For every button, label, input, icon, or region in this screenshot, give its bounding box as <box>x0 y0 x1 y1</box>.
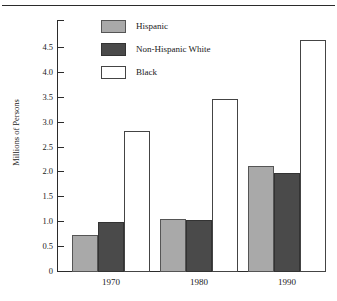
legend-item-black: Black <box>101 65 271 84</box>
y-tick-label-2-0: 2.0 <box>23 167 53 176</box>
legend-item-non-hispanic-white: Non-Hispanic White <box>101 42 271 61</box>
y-tick-label-2-5: 2.5 <box>23 143 53 152</box>
y-tick-1-0 <box>58 221 64 222</box>
y-tick-label-0-5: 0.5 <box>23 242 53 251</box>
legend-label-black: Black <box>136 67 157 78</box>
y-tick-1-5 <box>58 196 64 197</box>
y-tick-0 <box>58 271 64 272</box>
bar-1990-non-hispanic-white <box>274 173 300 272</box>
y-tick-label-1-0: 1.0 <box>23 217 53 226</box>
y-axis-title: Millions of Persons <box>12 73 21 193</box>
y-tick-label-1-5: 1.5 <box>23 192 53 201</box>
legend-swatch-black-icon <box>101 66 126 79</box>
y-tick-2-5 <box>58 147 64 148</box>
y-tick-label-3-5: 3.5 <box>23 93 53 102</box>
bar-1970-non-hispanic-white <box>98 222 124 272</box>
bar-1980-black <box>212 99 238 272</box>
y-tick-label-4-5: 4.5 <box>23 43 53 52</box>
legend-swatch-hispanic-icon <box>101 20 126 33</box>
y-tick-label-4-0: 4.0 <box>23 68 53 77</box>
y-tick-3-5 <box>58 97 64 98</box>
y-tick-label-3-0: 3.0 <box>23 118 53 127</box>
y-tick-3-0 <box>58 122 64 123</box>
y-tick-label-0: 0 <box>23 267 53 276</box>
bar-1980-hispanic <box>160 219 186 272</box>
x-axis-label-1980: 1980 <box>169 277 229 287</box>
x-axis-label-1990: 1990 <box>257 277 317 287</box>
y-tick-2-0 <box>58 171 64 172</box>
bar-1970-hispanic <box>72 235 98 272</box>
legend-item-hispanic: Hispanic <box>101 19 271 38</box>
y-tick-4-5 <box>58 47 64 48</box>
y-tick-0-5 <box>58 246 64 247</box>
x-axis-label-1970: 1970 <box>81 277 141 287</box>
y-tick-4-0 <box>58 72 64 73</box>
legend-label-hispanic: Hispanic <box>136 21 168 32</box>
y-axis-line <box>57 20 58 272</box>
y-axis-top-cap <box>57 20 64 21</box>
bar-1990-hispanic <box>248 166 274 272</box>
bar-1970-black <box>124 131 150 272</box>
bar-1980-non-hispanic-white <box>186 220 212 272</box>
chart-legend: Hispanic Non-Hispanic White Black <box>101 19 271 88</box>
chart-figure: 0 0.5 1.0 1.5 2.0 2.5 3.0 3.5 4.0 4.5 Mi… <box>0 0 337 301</box>
legend-label-non-hispanic-white: Non-Hispanic White <box>136 44 211 55</box>
bar-1990-black <box>300 40 326 272</box>
legend-swatch-non-hispanic-white-icon <box>101 43 126 56</box>
